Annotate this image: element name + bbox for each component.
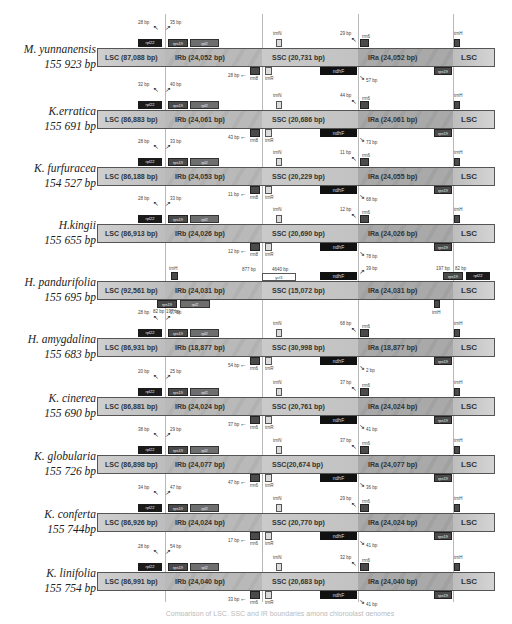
gene-label-trnH: trnH [454,555,463,560]
arrow-icon: ↗ [165,200,171,207]
gene-label-trnN: trnN [273,93,282,98]
gene-trnN [276,158,282,166]
lsc-region: LSC (86,898 bp) [98,456,165,473]
figure-caption: Comparison of LSC, SSC and IR boundaries… [90,610,470,616]
gene-trnR [265,357,272,365]
gene-label-rrn-bottom: rrn6 [250,425,258,430]
gene-label-trnH: trnH [454,31,463,36]
arrow-icon: ↗ [359,268,365,275]
gene-trnH [454,158,460,166]
lsc-region: LSC (86,883 bp) [98,111,165,128]
bp-label-ssc-ira-bottom: 68 bp [366,197,377,202]
bp-label-ssc-ira-top: 39 bp [366,266,377,271]
bp-label-ssc-ira-top: 29 bp [340,496,351,501]
arrow-icon: ↗ [165,431,171,438]
gene-label-trnR: trnR [265,138,274,143]
gene-ndhF: ndhF [320,532,357,540]
arrow-icon: ↖ [153,548,159,555]
species-name: H. amygdalina [2,332,96,347]
lsc-end-region: LSC [453,168,494,185]
ssc-region: SSC (20,690 bp) [262,225,358,242]
gene-rrn6 [360,158,369,166]
arrow-icon: ↖ [153,314,159,321]
gene-trnN [276,329,282,337]
genome-size: 155 726 bp [2,464,96,479]
arrow-icon: ← [240,361,247,368]
bp-label-ssc-ira-bottom: 41 bp [366,543,377,548]
arrow-icon: ↖ [351,155,357,162]
gene-rpl22: rpl22 [138,446,162,454]
irb-region: IRb (24,053 bp) [165,168,262,185]
arrow-icon: ← [240,536,247,543]
gene-label-rrn6: rrn6 [362,324,370,329]
genome-size: 155 683 bp [2,347,96,362]
irb-region: IRb (24,077 bp) [165,456,262,473]
genome-bar: LSC (86,931 bp) IRb (18,877 bp) SSC (30,… [97,338,495,357]
bp-label-ssc-ira-bottom: 2 bp [366,368,375,373]
arrow-icon: ↘ [359,136,365,143]
bp-label-irb-ssc: 47 bp [228,480,239,485]
arrow-icon: ↘ [359,364,365,371]
gene-label-trnR: trnR [265,252,274,257]
species-name: K. linifolia [2,566,96,581]
ira-region: IRa (24,055 bp) [358,168,453,185]
gene-rrn-bottom [250,357,260,365]
gene-rps19: rps19 [168,563,188,571]
arrow-icon: ↖ [153,24,159,31]
gene-rrn6 [360,563,369,571]
gene-rrn-bottom [250,532,260,540]
gene-rpl2: rpl2 [190,158,219,166]
gene-label-rrn6: rrn6 [362,210,370,215]
lsc-end-region: LSC [453,282,494,299]
gene-label-trnN: trnN [273,31,282,36]
arrow-icon: ↖ [351,36,357,43]
bp-label-irb-ssc: 28 bp [228,73,239,78]
gene-label-rrn-bottom: rrn8 [250,252,258,257]
gene-rpl2: rpl2 [190,215,219,223]
gene-rps19: rps19 [168,215,188,223]
gene-trnR [265,416,272,424]
gene-label-rrn6: rrn6 [362,441,370,446]
lsc-region: LSC (86,881 bp) [98,398,165,415]
genome-bar: LSC (86,913 bp) IRb (24,026 bp) SSC (20,… [97,224,495,243]
gene-label-trnR: trnR [265,76,274,81]
bp-label-lsc-irb-left: 28 bp [138,196,149,201]
arrow-icon: ↘ [359,481,365,488]
bp-label-ssc-ira-top: 37 bp [340,380,351,385]
lsc-region: LSC (87,088 bp) [98,49,165,66]
bp-label-irb-ssc: 877 bp [242,267,256,272]
gene-rrn-bottom [250,474,260,482]
arrow-icon: ↗ [165,24,171,31]
gene-trnH [454,329,460,337]
bp-label-ssc-ira-bottom: 36 bp [366,485,377,490]
arrow-icon: ↘ [359,250,365,257]
bp-label-ssc-ira-top: 37 bp [340,438,351,443]
ssc-region: SSC (20,229 bp) [262,168,358,185]
gene-label-rrn6: rrn6 [362,499,370,504]
bp-label-lsc-irb-left: 28 bp [138,544,149,549]
bp-label-irb-ssc: 17 bp [228,538,239,543]
ira-region: IRa (18,877 bp) [358,339,453,356]
gene-rps19: rps19 [168,446,188,454]
arrow-icon: ← [240,595,247,602]
arrow-icon: ↗ [165,489,171,496]
gene-ndhF: ndhF [320,243,357,251]
gene-trnR [265,532,272,540]
bp-label-ssc-ira-top: 68 bp [340,321,351,326]
gene-label-rrn-bottom: rrn8 [250,138,258,143]
bp-label-ira-lsc-right: 82 bp [455,266,466,271]
gene-rps19-ira: rps19 [434,532,452,540]
bp-label-ssc-ira-bottom: 41 bp [366,602,377,607]
gene-label-trnN: trnN [273,496,282,501]
gene-rpl22: rpl22 [466,272,490,280]
gene-ndhF: ndhF [320,474,357,482]
gene-rps19-ira: rps19 [434,129,452,137]
genome-size: 155 695 bp [2,290,96,305]
gene-rps19-ira: rps19 [434,474,452,482]
arrow-icon: ↘ [359,539,365,546]
gene-label-trnR: trnR [265,195,274,200]
irb-region: IRb (18,877 bp) [165,339,262,356]
species-name: H.kingii [2,218,96,233]
ssc-region: SSC (20,686 bp) [262,111,358,128]
bp-label-lsc-irb-left: 28 bp [138,310,149,315]
